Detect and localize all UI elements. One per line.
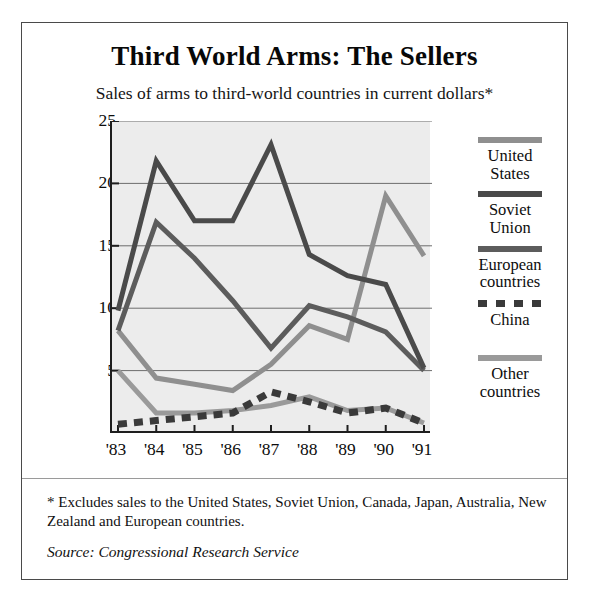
legend-label: Union bbox=[454, 219, 566, 237]
x-tick-91: '91 bbox=[399, 439, 445, 460]
legend-item-china[interactable]: China bbox=[454, 300, 566, 346]
legend-label: Soviet bbox=[454, 201, 566, 219]
figure-panel: Third World Arms: The Sellers Sales of a… bbox=[21, 22, 568, 580]
legend-label: European bbox=[454, 256, 566, 274]
chart-legend: UnitedStatesSovietUnionEuropeancountries… bbox=[454, 137, 566, 409]
series-svg bbox=[112, 121, 432, 433]
legend-swatch-icon bbox=[478, 137, 542, 143]
legend-item-european[interactable]: Europeancountries bbox=[454, 246, 566, 291]
notes-block: * Excludes sales to the United States, S… bbox=[47, 493, 547, 561]
legend-swatch-icon bbox=[478, 355, 542, 361]
legend-item-united[interactable]: UnitedStates bbox=[454, 137, 566, 182]
legend-swatch-icon bbox=[478, 300, 542, 307]
series-line-soviet-union bbox=[118, 145, 424, 368]
footnote-text: * Excludes sales to the United States, S… bbox=[47, 493, 547, 531]
legend-label: countries bbox=[454, 383, 566, 401]
legend-label: United bbox=[454, 147, 566, 165]
legend-label: States bbox=[454, 165, 566, 183]
plot-canvas bbox=[110, 121, 430, 433]
legend-item-other[interactable]: Othercountries bbox=[454, 355, 566, 400]
plot-wrapper: Billions of Dollars 510152025 '83'84'85'… bbox=[110, 121, 430, 433]
legend-label: Other bbox=[454, 365, 566, 383]
chart-area: Billions of Dollars 510152025 '83'84'85'… bbox=[22, 121, 567, 391]
legend-label: China bbox=[454, 311, 566, 329]
legend-label-spacer bbox=[454, 328, 566, 346]
legend-label: countries bbox=[454, 273, 566, 291]
series-line-european-countries bbox=[118, 222, 424, 371]
source-text: Source: Congressional Research Service bbox=[47, 543, 547, 561]
chart-subtitle: Sales of arms to third-world countries i… bbox=[22, 83, 567, 104]
legend-item-soviet[interactable]: SovietUnion bbox=[454, 191, 566, 236]
footnote-divider bbox=[22, 478, 567, 479]
legend-swatch-icon bbox=[478, 246, 542, 252]
legend-swatch-icon bbox=[478, 191, 542, 197]
chart-title: Third World Arms: The Sellers bbox=[22, 41, 567, 72]
series-line-united-states bbox=[118, 196, 424, 391]
